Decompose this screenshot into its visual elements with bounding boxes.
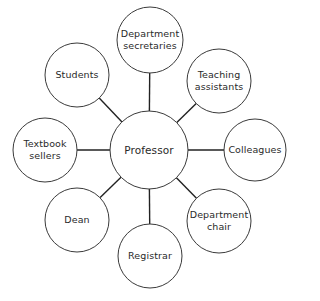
edge-professor-to-dean	[100, 177, 121, 198]
department-secretaries-label-line: Department	[121, 28, 180, 40]
textbook-sellers-label: Textbooksellers	[23, 138, 66, 162]
registrar-label: Registrar	[128, 250, 172, 262]
professor-label-line: Professor	[124, 144, 173, 156]
textbook-sellers-label-line: sellers	[23, 150, 66, 162]
department-secretaries-label: Departmentsecretaries	[121, 28, 180, 52]
registrar-label-line: Registrar	[128, 250, 172, 262]
teaching-assistants-label-line: assistants	[195, 81, 244, 93]
dean-label-line: Dean	[64, 214, 89, 226]
department-secretaries-label-line: secretaries	[121, 40, 180, 52]
colleagues-label: Colleagues	[228, 144, 281, 156]
edge-professor-to-teaching-assistants	[177, 104, 196, 123]
textbook-sellers-label-line: Textbook	[23, 138, 66, 150]
teaching-assistants-label: Teachingassistants	[195, 69, 244, 93]
teaching-assistants-label-line: Teaching	[195, 69, 244, 81]
edge-professor-to-department-chair	[176, 178, 196, 198]
department-chair-label-line: chair	[190, 221, 249, 233]
edge-professor-to-students	[99, 98, 122, 122]
department-chair-label-line: Department	[190, 209, 249, 221]
department-chair-label: Departmentchair	[190, 209, 249, 233]
professor-label: Professor	[124, 144, 173, 156]
students-label: Students	[55, 69, 98, 81]
colleagues-label-line: Colleagues	[228, 144, 281, 156]
dean-label: Dean	[64, 214, 89, 226]
students-label-line: Students	[55, 69, 98, 81]
